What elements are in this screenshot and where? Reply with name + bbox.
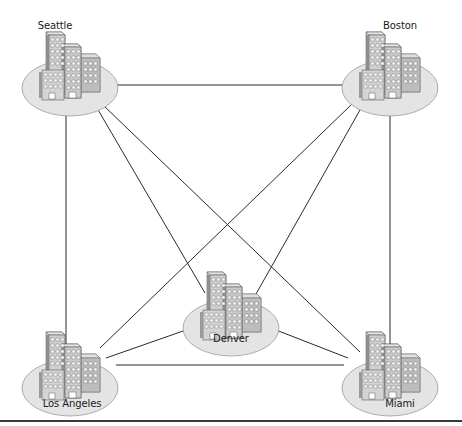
network-diagram (0, 0, 462, 426)
label-los-angeles: Los Angeles (43, 398, 102, 409)
site-seattle (22, 32, 118, 116)
label-denver: Denver (213, 333, 249, 344)
link-seattle-denver (97, 108, 205, 293)
label-seattle: Seattle (38, 20, 73, 31)
link-denver-miami (276, 330, 348, 358)
building-icon (39, 332, 100, 400)
label-miami: Miami (385, 398, 415, 409)
building-icon (200, 272, 261, 340)
building-icon (39, 32, 100, 100)
site-nodes (22, 32, 438, 416)
link-boston-denver (256, 110, 360, 294)
building-icon (359, 32, 420, 100)
link-los_angeles-denver (106, 330, 186, 358)
site-boston (342, 32, 438, 116)
label-boston: Boston (383, 20, 417, 31)
bottom-rule (0, 420, 462, 422)
